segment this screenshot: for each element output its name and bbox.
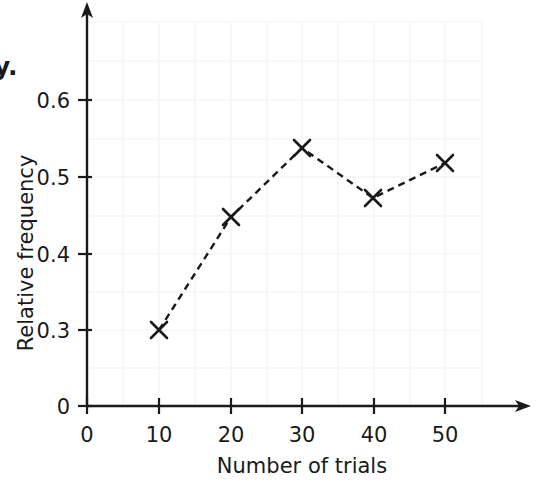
x-tick-label: 0	[80, 423, 93, 447]
y-tick-label: 0.5	[37, 166, 70, 190]
x-tick-label: 10	[146, 423, 173, 447]
relative-frequency-line-chart: y.	[0, 0, 545, 488]
x-axis-title: Number of trials	[217, 454, 387, 478]
y-tick-label: 0	[57, 395, 70, 419]
grid-lines	[87, 22, 482, 406]
x-tick-label: 30	[289, 423, 316, 447]
y-tick-labels: 0.6 0.5 0.4 0.3 0	[37, 89, 70, 419]
x-tick-labels: 0 10 20 30 40 50	[80, 423, 458, 447]
y-axis-ticks	[78, 100, 92, 406]
x-axis	[87, 400, 531, 412]
data-point-marker	[365, 190, 381, 206]
y-axis-title: Relative frequency	[14, 155, 38, 352]
x-tick-label: 50	[432, 423, 459, 447]
y-axis	[81, 2, 93, 406]
x-tick-label: 40	[361, 423, 388, 447]
y-tick-label: 0.3	[37, 319, 70, 343]
y-tick-label: 0.4	[37, 243, 70, 267]
cropped-body-text-fragment: y.	[0, 52, 18, 81]
y-tick-label: 0.6	[37, 89, 70, 113]
x-tick-label: 20	[218, 423, 245, 447]
chart-svg: 0.6 0.5 0.4 0.3 0 0 10 20 30 40 50	[0, 0, 545, 488]
